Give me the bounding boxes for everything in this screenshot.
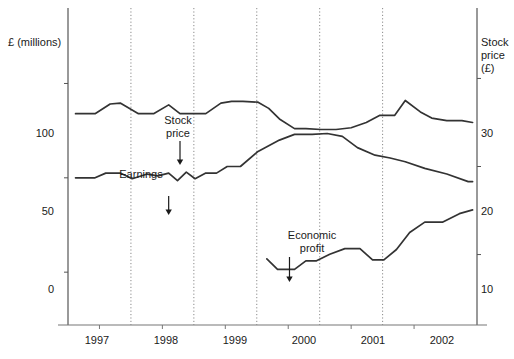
x-tick-2000: 2000: [274, 334, 334, 346]
annotation-economic-profit: Economic profit: [277, 229, 347, 254]
annotation-stock-price: Stock price: [150, 114, 206, 139]
gridlines-group: [131, 8, 383, 325]
x-tick-1998: 1998: [136, 334, 196, 346]
x-tick-1997: 1997: [67, 334, 127, 346]
chart-figure: £ (millions) Stock price (£) Stock price…: [0, 0, 514, 359]
annotation-earnings: Earnings: [110, 168, 172, 181]
x-tick-2002: 2002: [412, 334, 472, 346]
chart-plot-area: [0, 0, 514, 359]
x-tick-1999: 1999: [205, 334, 265, 346]
series-line-stock-price: [76, 100, 473, 129]
y-axis-right-title: Stock price (£): [481, 36, 514, 75]
y-tick-right-30: 30: [481, 127, 511, 139]
y-tick-left-100: 100: [24, 127, 54, 139]
axes-group: [58, 8, 487, 325]
annotation-arrows-group: [165, 141, 292, 282]
arrow-earnings-head: [165, 210, 171, 216]
data-series-group: [76, 100, 473, 269]
arrow-economic-profit-head: [286, 277, 292, 283]
x-tick-2001: 2001: [343, 334, 403, 346]
y-axis-left-title: £ (millions): [8, 36, 61, 49]
y-tick-left-50: 50: [24, 205, 54, 217]
tick-marks-group: [64, 78, 481, 329]
y-tick-left-0: 0: [24, 283, 54, 295]
y-tick-right-20: 20: [481, 205, 511, 217]
arrow-stock-price-head: [177, 160, 183, 166]
y-tick-right-10: 10: [481, 283, 511, 295]
